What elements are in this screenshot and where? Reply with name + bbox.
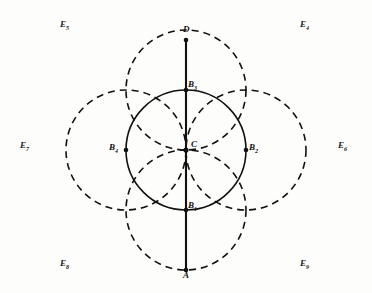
label-point-A: A	[183, 270, 189, 282]
region-label-E8: E8	[60, 258, 69, 270]
point-marker-B2	[244, 148, 249, 153]
region-label-E6: E6	[338, 140, 347, 152]
region-label-E9: E9	[300, 258, 309, 270]
point-marker-C	[183, 147, 188, 152]
geometry-figure	[0, 0, 372, 293]
label-point-B1: B1	[188, 200, 197, 212]
label-point-B3: B3	[188, 79, 197, 91]
region-label-E4: E4	[300, 19, 309, 31]
label-point-C: C	[191, 139, 197, 151]
label-point-D: D	[183, 24, 190, 36]
point-marker-B4	[124, 148, 129, 153]
region-label-E5: E5	[60, 19, 69, 31]
region-label-E7: E7	[20, 140, 29, 152]
point-marker-D	[184, 38, 189, 43]
label-point-B2: B2	[249, 142, 258, 154]
label-point-B4: B4	[109, 142, 118, 154]
